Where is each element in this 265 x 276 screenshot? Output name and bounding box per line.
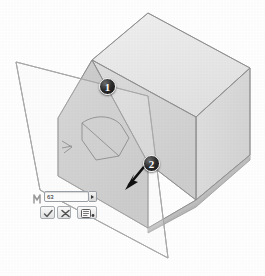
check-icon — [41, 207, 56, 220]
chevron-right-icon[interactable] — [89, 191, 97, 202]
ok-button[interactable] — [40, 206, 55, 219]
options-button[interactable] — [77, 206, 97, 219]
callout-badge-1: 1 — [99, 78, 116, 95]
cancel-button[interactable] — [57, 206, 72, 219]
x-icon — [58, 207, 73, 220]
cad-viewport[interactable]: 1 2 63 — [0, 0, 265, 276]
popup-button-row[interactable] — [40, 206, 97, 219]
value-input[interactable]: 63 — [44, 191, 89, 202]
value-input-row[interactable]: 63 — [33, 190, 97, 203]
dimension-icon — [33, 191, 44, 203]
value-property-popup[interactable]: 63 — [33, 190, 97, 219]
chevron-down-icon — [92, 214, 95, 217]
list-icon — [78, 207, 98, 220]
callout-badge-2: 2 — [143, 155, 160, 172]
model-scene — [0, 0, 265, 276]
